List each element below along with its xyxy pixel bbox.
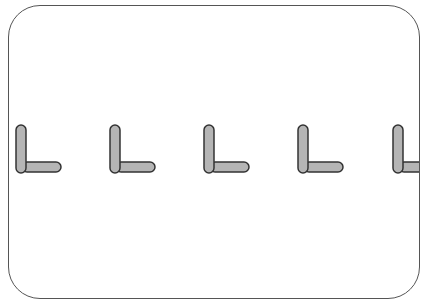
l-shape-3 bbox=[204, 125, 249, 173]
l-shapes-row bbox=[0, 0, 440, 308]
l-shape-5-clipped bbox=[393, 125, 438, 173]
l-shape-1 bbox=[16, 125, 61, 173]
l-shape-4 bbox=[298, 125, 343, 173]
l-shape-2 bbox=[110, 125, 155, 173]
